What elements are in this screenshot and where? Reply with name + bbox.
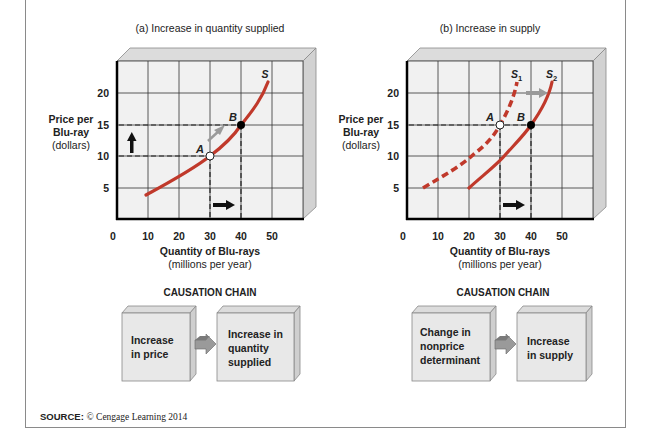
source-label: SOURCE: <box>40 411 84 422</box>
svg-text:determinant: determinant <box>420 354 481 366</box>
panel-b-x-tick: 0 <box>400 230 406 242</box>
panel-a: (a) Increase in quantity supplied <box>49 22 316 381</box>
svg-text:quantity: quantity <box>228 342 269 354</box>
panel-a-point-a <box>206 152 214 160</box>
panel-b-y-tick: 20 <box>387 87 399 99</box>
panel-a-label-a: A <box>195 143 204 155</box>
panel-b-point-a <box>496 121 504 129</box>
panel-a-title: (a) Increase in quantity supplied <box>136 22 285 34</box>
panel-b-x-label-1: Quantity of Blu-rays <box>450 245 551 257</box>
panel-a-causation-title: CAUSATION CHAIN <box>163 287 256 298</box>
svg-text:nonprice: nonprice <box>420 340 464 352</box>
panel-b-y-label-2: Blu-ray <box>343 126 379 138</box>
panel-a-box-side <box>303 48 316 219</box>
source-note: SOURCE: © Cengage Learning 2014 <box>40 411 187 422</box>
panel-b-chain-arrow-icon <box>495 334 516 354</box>
panel-a-chain-arrow-icon <box>195 334 216 354</box>
panel-b-chain-box-2: Increase in supply <box>517 306 592 381</box>
svg-text:supplied: supplied <box>228 356 271 368</box>
panel-b-y-tick: 10 <box>387 150 399 162</box>
panel-a-x-tick: 50 <box>266 230 278 242</box>
panel-a-y-tick: 10 <box>97 150 109 162</box>
panel-b-y-tick: 5 <box>393 182 399 194</box>
panel-a-x-label-2: (millions per year) <box>168 258 251 270</box>
panel-a-chain-box-1: Increase in price <box>122 306 196 381</box>
panel-b-x-tick: 30 <box>494 230 506 242</box>
panel-a-curve-label: S <box>261 68 268 80</box>
panel-a-y-tick: 5 <box>103 182 109 194</box>
panel-b-box-top <box>407 48 606 61</box>
panel-b-label-b: B <box>517 111 525 123</box>
panel-b: (b) Increase in supply <box>339 22 606 381</box>
source-text: © Cengage Learning 2014 <box>86 412 187 422</box>
panel-a-y-label-1: Price per <box>49 113 94 125</box>
panel-a-x-label-1: Quantity of Blu-rays <box>160 245 261 257</box>
panel-a-x-tick: 40 <box>235 230 247 242</box>
svg-text:Change in: Change in <box>420 326 471 338</box>
panel-a-x-tick: 30 <box>204 230 216 242</box>
panel-a-y-label-2: Blu-ray <box>53 126 89 138</box>
panel-a-y-label-3: (dollars) <box>52 139 90 151</box>
panel-b-causation-title: CAUSATION CHAIN <box>456 287 549 298</box>
svg-text:S: S <box>511 68 518 80</box>
panel-b-y-label-3: (dollars) <box>342 139 380 151</box>
panel-a-label-b: B <box>229 111 237 123</box>
panel-a-box-top <box>117 48 316 61</box>
panel-a-point-b <box>237 121 245 129</box>
panel-a-x-tick: 0 <box>110 230 116 242</box>
panel-b-chain-box-1: Change in nonprice determinant <box>412 306 496 381</box>
panel-a-x-tick: 20 <box>173 230 185 242</box>
panel-b-y-label-1: Price per <box>339 113 384 125</box>
panel-b-box-side <box>593 48 606 219</box>
svg-text:in price: in price <box>131 348 169 360</box>
panel-a-y-tick: 20 <box>97 87 109 99</box>
panel-a-y-tick: 15 <box>97 119 109 131</box>
panel-b-x-tick: 20 <box>463 230 475 242</box>
svg-text:Increase: Increase <box>131 334 174 346</box>
svg-text:Increase: Increase <box>527 335 570 347</box>
svg-text:in supply: in supply <box>527 349 573 361</box>
panel-a-chain-box-2: Increase in quantity supplied <box>217 306 300 381</box>
panel-b-x-tick: 10 <box>432 230 444 242</box>
panel-b-point-b <box>527 121 535 129</box>
svg-text:1: 1 <box>518 74 522 83</box>
panel-b-x-tick: 50 <box>556 230 568 242</box>
panel-b-label-a: A <box>485 111 494 123</box>
panel-b-y-tick: 15 <box>387 119 399 131</box>
panel-b-x-tick: 40 <box>525 230 537 242</box>
svg-text:Increase in: Increase in <box>228 328 283 340</box>
panel-b-title: (b) Increase in supply <box>440 22 541 34</box>
panel-b-x-label-2: (millions per year) <box>458 258 541 270</box>
figure-canvas: (a) Increase in quantity supplied <box>0 0 650 448</box>
svg-text:S: S <box>546 68 553 80</box>
svg-text:2: 2 <box>553 74 557 83</box>
panel-a-x-tick: 10 <box>142 230 154 242</box>
